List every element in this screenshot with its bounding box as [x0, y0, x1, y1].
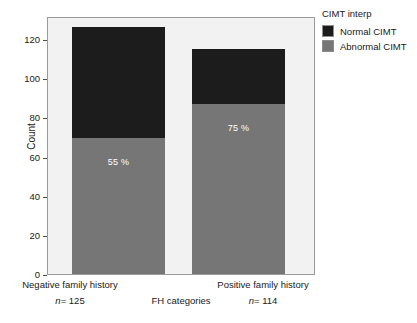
- y-tick-label-80: 80: [0, 112, 40, 123]
- bar-percent-label: 55 %: [72, 157, 165, 167]
- legend-swatch-normal-icon: [322, 25, 334, 37]
- x-note-value-positive: = 114: [254, 295, 277, 306]
- y-tick-label-20: 20: [0, 230, 40, 241]
- bar-segment-normal: [72, 27, 165, 138]
- x-note-negative: n= 125: [0, 295, 145, 306]
- y-tick-label-60: 60: [0, 152, 40, 163]
- y-tick-label-120: 120: [0, 34, 40, 45]
- y-tick-label-100: 100: [0, 73, 40, 84]
- x-tick-label-positive: Positive family history: [188, 279, 338, 290]
- legend-title: CIMT interp: [322, 8, 417, 19]
- x-note-value-negative: = 125: [61, 295, 85, 306]
- bar-percent-label: 75 %: [192, 123, 285, 133]
- legend-label-normal: Normal CIMT: [340, 26, 396, 37]
- legend-item-abnormal-cimt[interactable]: Abnormal CIMT: [322, 40, 417, 52]
- x-axis-label: FH categories: [131, 295, 231, 306]
- legend-label-abnormal: Abnormal CIMT: [340, 41, 407, 52]
- chart-figure: Count 120 100 80 60 40 20 0 55 % 75 %: [0, 0, 417, 323]
- legend: CIMT interp Normal CIMT Abnormal CIMT: [322, 8, 417, 55]
- y-axis-label: Count: [26, 92, 37, 182]
- bar-segment-normal: [192, 49, 285, 104]
- legend-swatch-abnormal-icon: [322, 40, 334, 52]
- x-tick-label-negative: Negative family history: [0, 279, 145, 290]
- plot-panel: 55 % 75 %: [47, 17, 315, 275]
- y-tick-mark: [43, 275, 47, 276]
- y-tick-label-40: 40: [0, 191, 40, 202]
- legend-item-normal-cimt[interactable]: Normal CIMT: [322, 25, 417, 37]
